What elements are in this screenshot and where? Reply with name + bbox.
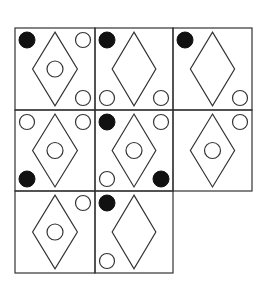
puzzle-cell-r1c1 xyxy=(15,28,95,110)
diamond-shape xyxy=(33,32,78,106)
hollow-circle-br xyxy=(76,91,91,106)
inner-hollow-circle xyxy=(47,224,63,240)
cell-border xyxy=(173,110,252,191)
diamond-shape xyxy=(112,114,156,187)
inner-hollow-circle xyxy=(205,143,221,159)
puzzle-grid xyxy=(0,0,267,289)
hollow-circle-tr xyxy=(76,115,91,130)
filled-circle-tl xyxy=(99,195,115,211)
hollow-circle-tr xyxy=(76,33,91,48)
puzzle-figure xyxy=(0,0,267,289)
hollow-circle-bl xyxy=(100,254,115,269)
hollow-circle-bl xyxy=(100,91,115,106)
diamond-shape xyxy=(33,195,78,269)
puzzle-cell-r1c3 xyxy=(173,28,252,110)
puzzle-cell-r2c1 xyxy=(15,110,95,191)
diamond-shape xyxy=(33,114,78,187)
diamond-shape xyxy=(190,114,234,187)
hollow-circle-tr xyxy=(76,196,91,211)
puzzle-cell-r2c3 xyxy=(173,110,252,191)
puzzle-cell-r3c1 xyxy=(15,191,95,273)
inner-hollow-circle xyxy=(47,143,63,159)
puzzle-cell-r3c2 xyxy=(95,191,173,273)
hollow-circle-tr xyxy=(233,115,248,130)
cell-border xyxy=(15,191,95,273)
filled-circle-tl xyxy=(177,32,193,48)
hollow-circle-bl xyxy=(100,172,115,187)
filled-circle-tl xyxy=(99,32,115,48)
diamond-shape xyxy=(112,195,156,269)
diamond-shape xyxy=(190,32,234,106)
filled-circle-bl xyxy=(19,171,35,187)
puzzle-cell-r1c2 xyxy=(95,28,173,110)
hollow-circle-br xyxy=(233,91,248,106)
hollow-circle-tl xyxy=(20,115,35,130)
puzzle-cell-r2c2 xyxy=(95,110,173,191)
inner-hollow-circle xyxy=(126,143,142,159)
filled-circle-tl xyxy=(99,114,115,130)
hollow-circle-br xyxy=(154,91,169,106)
filled-circle-tl xyxy=(19,32,35,48)
inner-hollow-circle xyxy=(47,61,63,77)
filled-circle-br xyxy=(153,171,169,187)
hollow-circle-tr xyxy=(154,115,169,130)
diamond-shape xyxy=(112,32,156,106)
